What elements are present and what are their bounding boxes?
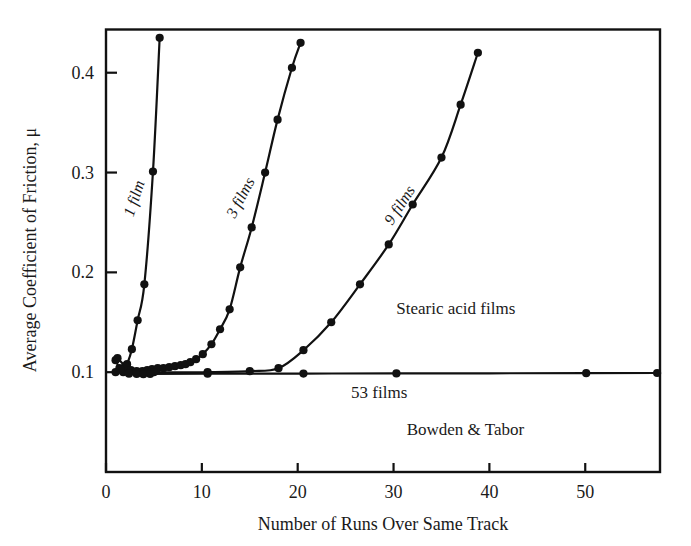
plot-annotation: Bowden & Tabor	[407, 420, 525, 439]
data-point	[140, 280, 148, 288]
data-point	[356, 280, 364, 288]
data-point	[236, 263, 244, 271]
data-point	[385, 240, 393, 248]
y-axis-title: Average Coefficient of Friction, μ	[20, 128, 40, 372]
data-point	[582, 369, 590, 377]
data-point	[457, 101, 465, 109]
data-point	[274, 364, 282, 372]
data-point	[207, 340, 215, 348]
x-tick-label: 30	[385, 482, 403, 502]
data-point	[246, 367, 254, 375]
data-point	[204, 370, 212, 378]
data-point	[146, 370, 154, 378]
data-point	[392, 369, 400, 377]
data-point	[199, 350, 207, 358]
data-point	[192, 355, 200, 363]
chart-figure: 01020304050 0.10.20.30.4 1 film3 films9 …	[0, 0, 691, 546]
y-tick-label: 0.4	[72, 63, 95, 83]
x-tick-label: 20	[289, 482, 307, 502]
data-point	[288, 64, 296, 72]
data-point	[156, 34, 164, 42]
y-tick-label: 0.1	[72, 362, 95, 382]
data-point	[327, 318, 335, 326]
data-point	[653, 369, 661, 377]
data-point	[474, 49, 482, 57]
data-point	[437, 153, 445, 161]
y-tick-label: 0.3	[72, 163, 95, 183]
figure-background	[0, 0, 691, 546]
data-point	[248, 223, 256, 231]
data-point	[296, 39, 304, 47]
plot-annotation: 53 films	[351, 383, 407, 402]
data-point	[149, 167, 157, 175]
data-point	[299, 346, 307, 354]
data-point	[273, 116, 281, 124]
data-point	[111, 368, 119, 376]
data-point	[226, 305, 234, 313]
x-axis-title: Number of Runs Over Same Track	[258, 514, 508, 534]
y-tick-label: 0.2	[72, 262, 95, 282]
x-tick-label: 10	[193, 482, 211, 502]
data-point	[113, 354, 121, 362]
data-point	[261, 168, 269, 176]
data-point	[134, 316, 142, 324]
x-tick-label: 50	[576, 482, 594, 502]
data-point	[125, 370, 133, 378]
data-point	[216, 325, 224, 333]
x-tick-label: 0	[102, 482, 111, 502]
data-point	[128, 345, 136, 353]
x-tick-label: 40	[480, 482, 498, 502]
plot-annotation: Stearic acid films	[396, 299, 515, 318]
friction-line-chart: 01020304050 0.10.20.30.4 1 film3 films9 …	[0, 0, 691, 546]
data-point	[299, 369, 307, 377]
